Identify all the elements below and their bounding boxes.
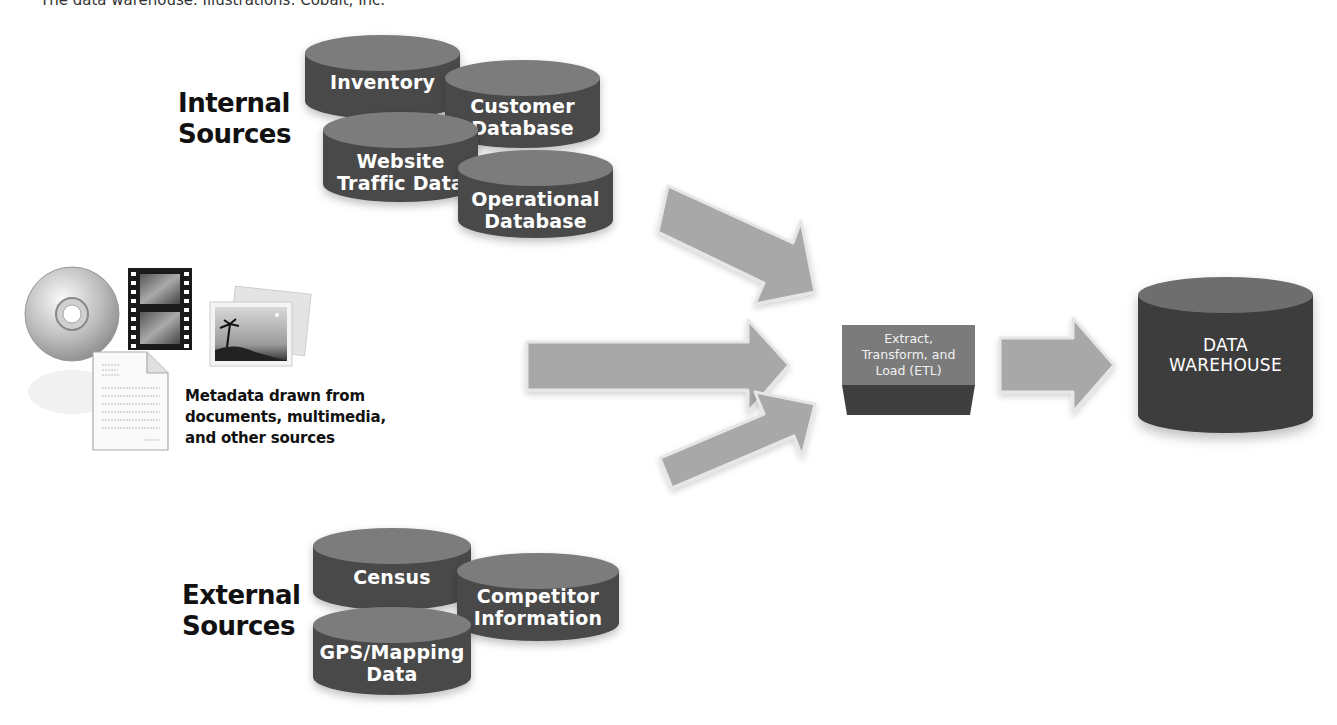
arrow-etl-to-warehouse <box>1000 318 1114 412</box>
db-census: Census <box>313 528 471 612</box>
arrow-metadata-to-etl <box>527 320 789 412</box>
db-gps-mapping-data: GPS/Mapping Data <box>313 607 471 699</box>
arrow-external-to-etl <box>660 392 815 488</box>
db-label-line2: Information <box>457 607 619 629</box>
external-label-line1: External <box>182 580 300 611</box>
db-label: Census <box>313 566 471 588</box>
warehouse-label-line2: WAREHOUSE <box>1138 355 1313 375</box>
db-label-line1: Competitor <box>457 585 619 607</box>
db-competitor-information: Competitor Information <box>457 553 619 645</box>
etl-process-box: Extract, Transform, and Load (ETL) <box>842 325 975 415</box>
etl-label-line3: Load (ETL) <box>842 363 975 379</box>
db-label-line1: GPS/Mapping <box>313 641 471 663</box>
external-sources-label: External Sources <box>182 580 300 642</box>
etl-label-line2: Transform, and <box>842 347 975 363</box>
warehouse-label-line1: DATA <box>1138 335 1313 355</box>
arrow-internal-to-etl <box>657 184 815 304</box>
external-label-line2: Sources <box>182 611 300 642</box>
etl-label-line1: Extract, <box>842 331 975 347</box>
etl-box-base <box>842 385 975 415</box>
db-label-line2: Data <box>313 663 471 685</box>
etl-label: Extract, Transform, and Load (ETL) <box>842 331 975 379</box>
data-warehouse: DATA WAREHOUSE <box>1138 277 1313 437</box>
